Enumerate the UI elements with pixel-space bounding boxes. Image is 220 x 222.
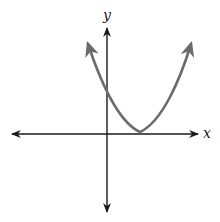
y-axis-label: y bbox=[103, 8, 111, 22]
parabola-curve bbox=[88, 44, 191, 132]
coordinate-plane bbox=[0, 0, 220, 222]
x-axis-label: x bbox=[203, 126, 211, 140]
